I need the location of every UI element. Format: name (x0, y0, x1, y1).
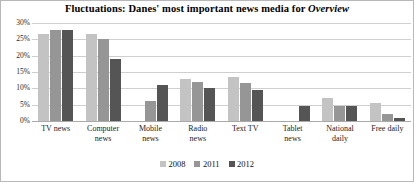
legend-label: 2008 (168, 159, 185, 169)
bar[interactable] (86, 34, 97, 121)
bar-group (174, 23, 221, 121)
x-tick-label-line: Radio (174, 124, 221, 134)
bar[interactable] (110, 59, 121, 121)
y-tick-mark (27, 39, 30, 40)
legend-label: 2012 (237, 159, 254, 169)
legend-item[interactable]: 2011 (194, 159, 219, 169)
bar-group (316, 23, 363, 121)
legend-swatch (229, 161, 235, 167)
bar[interactable] (38, 34, 49, 121)
x-tick-label: Text TV (222, 124, 269, 143)
x-tick-label-line: TV news (32, 124, 79, 134)
bar[interactable] (204, 88, 215, 121)
bar[interactable] (62, 30, 73, 121)
y-tick-label: 30% (3, 19, 30, 27)
y-tick-label: 0% (3, 117, 30, 125)
y-tick-label: 5% (3, 101, 30, 109)
bar[interactable] (299, 106, 310, 121)
bar[interactable] (370, 103, 381, 121)
bar[interactable] (346, 106, 357, 121)
bar[interactable] (157, 85, 168, 121)
y-axis: 0%5%10%15%20%25%30% (1, 23, 30, 121)
bar-group (32, 23, 79, 121)
legend-label: 2011 (203, 159, 220, 169)
bar-group (269, 23, 316, 121)
axis-baseline (32, 121, 411, 122)
bar[interactable] (394, 118, 405, 121)
bar[interactable] (180, 79, 191, 121)
bar[interactable] (228, 77, 239, 121)
y-tick-mark (27, 88, 30, 89)
x-tick-label: TV news (32, 124, 79, 143)
legend-swatch (160, 161, 166, 167)
x-tick-label-line: Free daily (364, 124, 411, 134)
x-tick-label: Mobilenews (127, 124, 174, 143)
bar[interactable] (98, 39, 109, 121)
y-tick-label: 10% (3, 84, 30, 92)
bar[interactable] (322, 98, 333, 121)
chart-title: Fluctuations: Danes' most important news… (1, 3, 413, 14)
x-tick-label: Radionews (174, 124, 221, 143)
y-tick-mark (27, 56, 30, 57)
y-tick-mark (27, 121, 30, 122)
x-tick-label-line: news (269, 134, 316, 144)
bar-group (79, 23, 126, 121)
bar-group (222, 23, 269, 121)
x-tick-label-line: Tablet (269, 124, 316, 134)
x-tick-label: Tabletnews (269, 124, 316, 143)
x-tick-label: Free daily (364, 124, 411, 143)
x-tick-label-line: Mobile (127, 124, 174, 134)
bar-groups (32, 23, 411, 121)
x-tick-label-line: news (174, 134, 221, 144)
chart-title-emphasis: Overview (308, 3, 349, 14)
x-tick-label-line: news (127, 134, 174, 144)
bar-group (364, 23, 411, 121)
x-tick-label-line: Computer (79, 124, 126, 134)
x-tick-label-line: National (316, 124, 363, 134)
chart-title-text: Fluctuations: Danes' most important news… (65, 3, 308, 14)
x-tick-label: Computernews (79, 124, 126, 143)
x-tick-label: Nationaldaily (316, 124, 363, 143)
legend-item[interactable]: 2012 (229, 159, 255, 169)
legend-item[interactable]: 2008 (160, 159, 186, 169)
bar[interactable] (382, 114, 393, 121)
chart-legend: 200820112012 (1, 159, 413, 169)
y-tick-mark (27, 105, 30, 106)
bar[interactable] (192, 82, 203, 121)
bar[interactable] (240, 83, 251, 121)
y-tick-label: 25% (3, 35, 30, 43)
y-tick-mark (27, 23, 30, 24)
bar[interactable] (50, 30, 61, 121)
x-axis-labels: TV newsComputernewsMobilenewsRadionewsTe… (32, 124, 411, 143)
legend-swatch (194, 161, 200, 167)
bar[interactable] (334, 106, 345, 121)
bar[interactable] (252, 90, 263, 121)
bar-group (127, 23, 174, 121)
chart-figure: Fluctuations: Danes' most important news… (0, 0, 414, 182)
y-tick-mark (27, 72, 30, 73)
y-tick-label: 15% (3, 68, 30, 76)
x-tick-label-line: news (79, 134, 126, 144)
x-tick-label-line: daily (316, 134, 363, 144)
x-tick-label-line: Text TV (222, 124, 269, 134)
y-tick-label: 20% (3, 52, 30, 60)
bar[interactable] (145, 101, 156, 121)
